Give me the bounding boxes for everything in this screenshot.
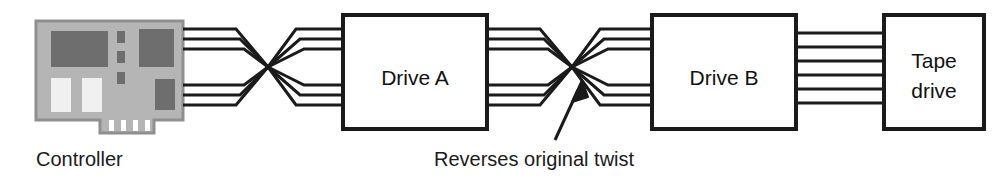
controller-chip-dot-3 [117,72,125,84]
controller-chip-top-right [139,29,174,67]
controller-chip-dot-2 [117,51,125,63]
diagram-canvas: Drive A Drive B [0,0,1005,176]
drive-b-box: Drive B [652,15,796,129]
controller-edge-finger-2 [121,120,126,131]
tape-drive-label-line2: drive [911,79,957,102]
conductor-2 [183,39,268,67]
controller-chip-right [155,79,175,110]
drive-a-box: Drive A [343,15,487,129]
controller-socket-1 [51,78,71,112]
controller-socket-2 [82,78,102,112]
reverses-twist-caption: Reverses original twist [434,148,635,170]
tape-drive-label-line1: Tape [911,49,957,72]
cable-twist-1 [268,29,343,105]
controller-card [36,21,183,133]
controller-edge-finger-4 [145,120,150,131]
conductor-5 [487,67,572,95]
drive-b-label: Drive B [690,66,759,89]
controller-edge-finger-3 [133,120,138,131]
controller-label: Controller [36,148,123,170]
cable-segment-controller-to-twist1 [183,29,268,105]
cable-segment-drive-b-to-tape-drive [796,33,884,103]
drive-a-label: Drive A [381,66,449,89]
conductor-2 [487,39,572,67]
conductor-5 [183,67,268,95]
controller-edge-finger-1 [109,120,114,131]
tape-drive-outline [884,15,984,129]
cable-twist-diagram: Drive A Drive B [0,0,1005,176]
reverses-twist-arrow [555,80,588,140]
controller-chip-dot-1 [117,31,125,43]
controller-chip-large [51,31,108,67]
cable-segment-drive-a-to-twist2 [487,29,572,105]
tape-drive-box: Tape drive [884,15,984,129]
